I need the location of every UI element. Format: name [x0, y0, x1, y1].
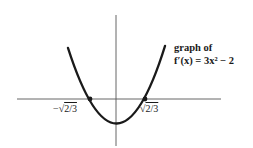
tick-pos-radicand: 2/3 — [146, 103, 159, 114]
tick-neg-radicand: 2/3 — [64, 103, 77, 114]
graph-title-line1: graph of — [174, 42, 212, 53]
derivative-graph-figure: graph of f′(x) = 3x² − 2 −√2/3 √2/3 — [0, 0, 253, 148]
tick-neg-prefix: −√ — [53, 103, 64, 114]
x-tick-label-positive-root: √2/3 — [140, 103, 158, 114]
root-point-positive — [143, 97, 148, 102]
plot-canvas — [0, 0, 253, 148]
root-point-negative — [88, 97, 93, 102]
graph-title-formula: f′(x) = 3x² − 2 — [174, 55, 234, 66]
x-tick-label-negative-root: −√2/3 — [53, 103, 77, 114]
